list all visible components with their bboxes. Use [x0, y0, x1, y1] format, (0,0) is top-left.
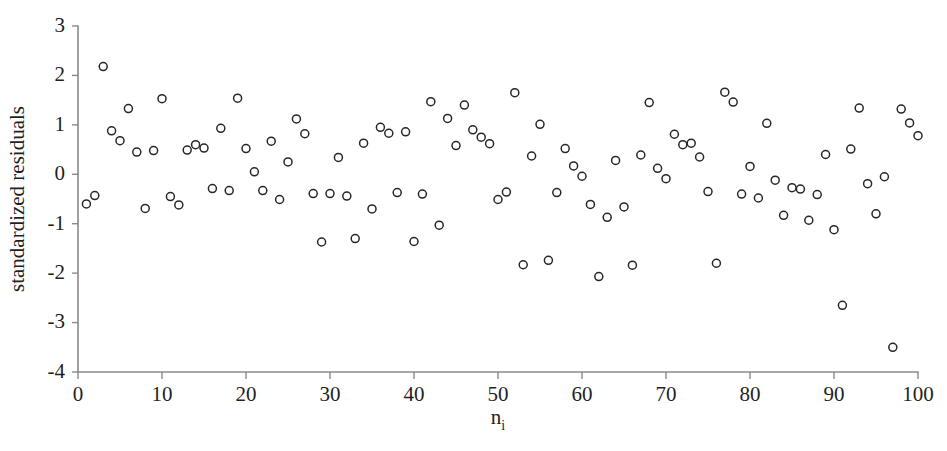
data-point	[729, 98, 737, 106]
data-point	[124, 105, 132, 113]
x-tick-label: 90	[824, 382, 845, 406]
data-point	[906, 119, 914, 127]
data-point	[603, 213, 611, 221]
data-point	[494, 195, 502, 203]
data-point	[855, 104, 863, 112]
data-point	[880, 173, 888, 181]
data-point	[292, 115, 300, 123]
y-tick-label: -1	[48, 211, 66, 235]
y-tick-label: 0	[55, 161, 66, 185]
data-point	[200, 144, 208, 152]
data-point	[217, 124, 225, 132]
y-tick-label: 1	[55, 112, 66, 136]
data-point	[402, 128, 410, 136]
data-point	[418, 190, 426, 198]
data-point	[578, 172, 586, 180]
data-point	[704, 188, 712, 196]
data-point-series	[82, 63, 922, 352]
data-point	[486, 140, 494, 148]
data-point	[116, 137, 124, 145]
x-tick-label: 0	[73, 382, 84, 406]
data-point	[242, 145, 250, 153]
data-point	[108, 127, 116, 135]
data-point	[158, 95, 166, 103]
data-point	[250, 168, 258, 176]
data-point	[150, 147, 158, 155]
data-point	[267, 137, 275, 145]
y-axis-group: 3210-1-2-3-4	[48, 13, 79, 383]
data-point	[477, 133, 485, 141]
data-point	[662, 175, 670, 183]
x-tick-label: 20	[236, 382, 257, 406]
data-point	[586, 200, 594, 208]
data-point	[452, 142, 460, 150]
plot-canvas: 3210-1-2-3-4 0102030405060708090100 stan…	[0, 0, 947, 451]
data-point	[166, 193, 174, 201]
data-point	[368, 205, 376, 213]
data-point	[914, 132, 922, 140]
data-point	[645, 99, 653, 107]
data-point	[687, 139, 695, 147]
data-point	[595, 273, 603, 281]
data-point	[469, 126, 477, 134]
y-axis-ticks: 3210-1-2-3-4	[48, 13, 79, 383]
data-point	[847, 145, 855, 153]
x-tick-label: 30	[320, 382, 341, 406]
data-point	[620, 203, 628, 211]
data-point	[393, 189, 401, 197]
x-axis-group: 0102030405060708090100	[73, 372, 934, 406]
data-point	[360, 139, 368, 147]
y-tick-label: -4	[48, 359, 66, 383]
y-tick-label: -2	[48, 260, 66, 284]
data-point	[771, 176, 779, 184]
x-axis-title-subscript: i	[501, 418, 505, 433]
data-point	[276, 195, 284, 203]
data-point	[813, 191, 821, 199]
x-tick-label: 80	[740, 382, 761, 406]
x-axis-title: ni	[491, 405, 506, 433]
data-point	[544, 256, 552, 264]
data-point	[897, 105, 905, 113]
data-point	[805, 216, 813, 224]
data-point	[444, 114, 452, 122]
data-point	[612, 156, 620, 164]
data-point	[838, 301, 846, 309]
x-tick-label: 70	[656, 382, 677, 406]
data-point	[343, 192, 351, 200]
data-point	[234, 94, 242, 102]
data-point	[511, 89, 519, 97]
data-point	[788, 184, 796, 192]
data-point	[696, 153, 704, 161]
data-point	[519, 261, 527, 269]
data-point	[183, 146, 191, 154]
scatter-plot-figure: 3210-1-2-3-4 0102030405060708090100 stan…	[0, 0, 947, 451]
data-point	[385, 129, 393, 137]
x-axis-ticks: 0102030405060708090100	[73, 372, 934, 406]
data-point	[822, 151, 830, 159]
y-tick-label: 3	[55, 13, 66, 37]
data-point	[628, 261, 636, 269]
x-tick-label: 50	[488, 382, 509, 406]
data-point	[133, 148, 141, 156]
data-point	[502, 188, 510, 196]
data-point	[192, 141, 200, 149]
data-point	[712, 259, 720, 267]
data-point	[780, 211, 788, 219]
y-tick-label: -3	[48, 309, 66, 333]
data-point	[318, 238, 326, 246]
data-point	[754, 194, 762, 202]
y-tick-label: 2	[55, 62, 66, 86]
data-point	[351, 235, 359, 243]
x-tick-label: 10	[152, 382, 173, 406]
data-point	[536, 120, 544, 128]
data-point	[872, 210, 880, 218]
data-point	[654, 164, 662, 172]
data-point	[721, 88, 729, 96]
data-point	[91, 192, 99, 200]
y-axis-title: standardized residuals	[5, 106, 29, 292]
data-point	[637, 151, 645, 159]
data-point	[99, 63, 107, 71]
data-point	[175, 201, 183, 209]
data-point	[334, 153, 342, 161]
data-point	[561, 145, 569, 153]
